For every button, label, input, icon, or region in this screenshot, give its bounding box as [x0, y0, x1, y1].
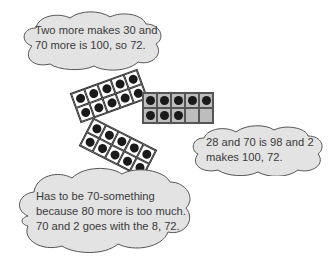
cloud-top-line-2: 70 more is 100, so 72.: [35, 38, 158, 53]
counter-dot: [160, 111, 169, 120]
counter-dot: [127, 74, 139, 86]
empty-cell: [185, 108, 199, 123]
counter-dot: [146, 111, 155, 120]
counter-dot: [174, 111, 183, 120]
thought-cloud-top: Two more makes 30 and 70 more is 100, so…: [18, 8, 166, 74]
counter-dot: [140, 148, 152, 160]
thought-cloud-bottom: Has to be 70-something because 80 more i…: [14, 164, 196, 256]
thought-cloud-right: 28 and 70 is 98 and 2 makes 100, 72.: [188, 124, 326, 176]
empty-cell: [199, 108, 213, 123]
counter-dot: [119, 92, 131, 104]
counter-dot: [114, 78, 126, 90]
counter-dot: [93, 102, 105, 114]
cloud-bottom-line-1: Has to be 70-something: [36, 189, 186, 204]
cloud-bottom-line-3: 70 and 2 goes with the 8, 72.: [36, 219, 186, 234]
ten-frame-tilted-upper: [70, 69, 149, 124]
counter-dot: [74, 93, 86, 105]
counter-dot: [188, 96, 197, 105]
counter-dot: [146, 96, 155, 105]
counter-dot: [202, 96, 211, 105]
counter-dot: [160, 96, 169, 105]
counter-dot: [79, 107, 91, 119]
counter-dot: [101, 83, 113, 95]
counter-dot: [174, 96, 183, 105]
cloud-right-line-2: makes 100, 72.: [206, 150, 314, 165]
cloud-bottom-line-2: because 80 more is too much.: [36, 204, 186, 219]
counter-dot: [106, 97, 118, 109]
cloud-right-line-1: 28 and 70 is 98 and 2: [206, 135, 314, 150]
counter-dot: [88, 88, 100, 100]
ten-frame-grey: [142, 92, 214, 124]
cloud-top-line-1: Two more makes 30 and: [35, 23, 158, 38]
